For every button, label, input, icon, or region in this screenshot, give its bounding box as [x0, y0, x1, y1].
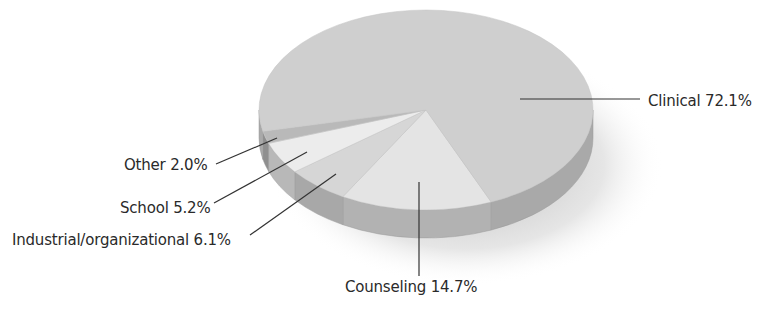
pie-chart [0, 0, 764, 309]
pie-3d [259, 10, 663, 285]
label-counseling: Counseling 14.7% [345, 278, 477, 296]
label-school: School 5.2% [120, 199, 210, 217]
label-industrial-organizational: Industrial/organizational 6.1% [12, 231, 231, 249]
label-clinical: Clinical 72.1% [648, 92, 752, 110]
label-other: Other 2.0% [124, 156, 207, 174]
